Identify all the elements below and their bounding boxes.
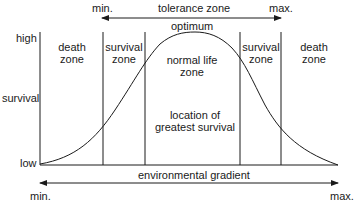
tolerance-zone-label: tolerance zone — [158, 2, 230, 14]
survival-zone-left: survivalzone — [104, 41, 144, 65]
gradient-min-label: min. — [30, 190, 51, 202]
survival-zone-right: survivalzone — [241, 41, 281, 65]
gradient-label: environmental gradient — [138, 169, 250, 181]
tolerance-min-label: min. — [92, 2, 113, 14]
y-axis-label: survival — [2, 92, 39, 104]
death-zone-left: deathzone — [50, 41, 94, 65]
death-zone-right: deathzone — [292, 41, 336, 65]
greatest-survival-note: location ofgreatest survival — [150, 109, 240, 133]
normal-life-zone: normal lifezone — [160, 54, 224, 78]
y-high-label: high — [16, 32, 37, 44]
optimum-label: optimum — [171, 20, 213, 32]
y-low-label: low — [20, 157, 37, 169]
tolerance-max-label: max. — [269, 2, 293, 14]
gradient-max-label: max. — [330, 190, 354, 202]
